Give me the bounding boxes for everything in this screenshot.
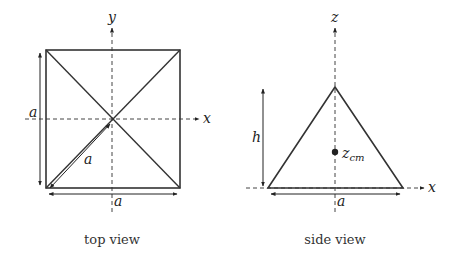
dim-left-label: a: [29, 104, 37, 120]
triangle-profile: [268, 87, 403, 188]
diagram: x y a a a top view x z: [0, 0, 453, 257]
side-x-axis-label: x: [428, 179, 436, 195]
dim-diagonal-label: a: [84, 151, 92, 167]
side-view-caption: side view: [304, 232, 365, 247]
top-x-axis-label: x: [203, 110, 211, 126]
dim-bottom-label: a: [114, 193, 122, 209]
top-view: x y a a a top view: [25, 9, 211, 247]
top-y-axis-label: y: [107, 9, 117, 25]
top-view-caption: top view: [84, 232, 140, 247]
dim-base-label: a: [337, 193, 345, 209]
center-of-mass-label: zcm: [341, 145, 364, 163]
cm-label-sub: cm: [349, 152, 364, 163]
center-of-mass-point: [332, 149, 338, 155]
dim-height-label: h: [252, 129, 261, 145]
dim-diagonal: [50, 124, 110, 188]
side-view: x z h a zcm side view: [246, 9, 436, 247]
side-z-axis-label: z: [330, 9, 339, 25]
